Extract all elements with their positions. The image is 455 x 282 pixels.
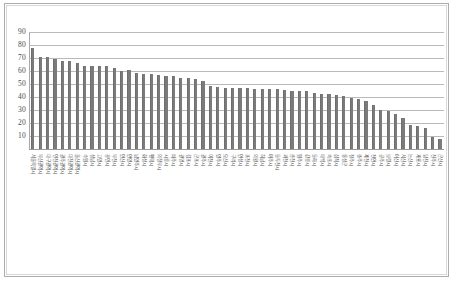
bar[interactable] bbox=[283, 90, 286, 149]
category-label: 안산시 bbox=[119, 154, 124, 166]
bar[interactable] bbox=[68, 61, 71, 149]
category-label-slot: 군포시 bbox=[192, 152, 199, 262]
bar-slot bbox=[133, 32, 140, 149]
bar[interactable] bbox=[350, 98, 353, 149]
bar[interactable] bbox=[46, 57, 49, 149]
category-label-slot: 논산시 bbox=[407, 152, 414, 262]
bar-slot bbox=[51, 32, 58, 149]
category-label-slot: 광주광역시 bbox=[59, 152, 66, 262]
category-label-slot: 성남시 bbox=[88, 152, 95, 262]
bar[interactable] bbox=[401, 118, 404, 149]
category-label: 강릉시 bbox=[304, 154, 309, 166]
category-label: 서산시 bbox=[401, 154, 406, 166]
category-label-slot: 보령시 bbox=[385, 152, 392, 262]
category-label: 논산시 bbox=[408, 154, 413, 166]
bar[interactable] bbox=[394, 114, 397, 149]
bar[interactable] bbox=[61, 61, 64, 149]
y-axis-tick-label: 30 bbox=[18, 106, 26, 114]
bar[interactable] bbox=[231, 88, 234, 149]
bar-slot bbox=[110, 32, 117, 149]
bar[interactable] bbox=[431, 137, 434, 149]
category-label: 춘천시 bbox=[290, 154, 295, 166]
category-label-slot: 용인시 bbox=[103, 152, 110, 262]
bar[interactable] bbox=[216, 87, 219, 149]
bar[interactable] bbox=[305, 91, 308, 150]
bar-slot bbox=[44, 32, 51, 149]
bar-slot bbox=[310, 32, 317, 149]
bar-slot bbox=[392, 32, 399, 149]
category-label-slot: 군산시 bbox=[436, 152, 443, 262]
category-label-slot: 원주시 bbox=[296, 152, 303, 262]
bar[interactable] bbox=[90, 66, 93, 149]
bar[interactable] bbox=[83, 66, 86, 149]
bar-slot bbox=[36, 32, 43, 149]
bar-slot bbox=[288, 32, 295, 149]
bar[interactable] bbox=[327, 94, 330, 149]
bar[interactable] bbox=[416, 126, 419, 149]
bar[interactable] bbox=[290, 91, 293, 150]
bar[interactable] bbox=[268, 89, 271, 149]
bar[interactable] bbox=[53, 59, 56, 149]
bar[interactable] bbox=[238, 88, 241, 149]
bar[interactable] bbox=[335, 95, 338, 149]
bar[interactable] bbox=[379, 110, 382, 149]
category-label-slot: 광주시 bbox=[199, 152, 206, 262]
bar[interactable] bbox=[172, 76, 175, 149]
bar[interactable] bbox=[224, 88, 227, 149]
category-label-slot: 시흥시 bbox=[162, 152, 169, 262]
bar[interactable] bbox=[409, 125, 412, 149]
bar[interactable] bbox=[105, 66, 108, 149]
bar[interactable] bbox=[157, 75, 160, 149]
bar[interactable] bbox=[76, 63, 79, 149]
bar[interactable] bbox=[209, 86, 212, 149]
bar-slot bbox=[88, 32, 95, 149]
y-axis-tick-label: 70 bbox=[18, 54, 26, 62]
bar[interactable] bbox=[261, 89, 264, 149]
bar[interactable] bbox=[320, 94, 323, 149]
category-label-slot: 구리시 bbox=[229, 152, 236, 262]
bar[interactable] bbox=[142, 74, 145, 149]
category-label: 이천시 bbox=[208, 154, 213, 166]
bar[interactable] bbox=[98, 66, 101, 149]
category-label-slot: 의정부시 bbox=[155, 152, 162, 262]
bar[interactable] bbox=[424, 128, 427, 149]
bar[interactable] bbox=[127, 70, 130, 149]
bar-slot bbox=[236, 32, 243, 149]
bar-slot bbox=[81, 32, 88, 149]
y-axis-tick-label: 40 bbox=[18, 93, 26, 101]
bar[interactable] bbox=[135, 73, 138, 149]
bar[interactable] bbox=[438, 139, 441, 149]
category-label-slot: 의왕시 bbox=[251, 152, 258, 262]
category-label: 고양시 bbox=[97, 154, 102, 166]
bar[interactable] bbox=[150, 74, 153, 149]
bar[interactable] bbox=[31, 48, 34, 149]
category-label-slot: 삼척시 bbox=[333, 152, 340, 262]
bar[interactable] bbox=[357, 99, 360, 149]
bar[interactable] bbox=[120, 71, 123, 149]
bar[interactable] bbox=[246, 88, 249, 149]
bar[interactable] bbox=[253, 89, 256, 149]
bar-slot bbox=[318, 32, 325, 149]
bar-slot bbox=[281, 32, 288, 149]
bar-slot bbox=[244, 32, 251, 149]
bar[interactable] bbox=[201, 81, 204, 149]
bar-chart: 908070605040302010 서울특별시부산광역시대구광역시인천광역시광… bbox=[5, 4, 450, 278]
category-label: 수원시 bbox=[82, 154, 87, 166]
bar[interactable] bbox=[364, 101, 367, 149]
bar-slot bbox=[103, 32, 110, 149]
category-label: 부천시 bbox=[112, 154, 117, 166]
bar[interactable] bbox=[276, 89, 279, 149]
bar[interactable] bbox=[194, 79, 197, 149]
bar[interactable] bbox=[113, 68, 116, 149]
category-label: 양주시 bbox=[215, 154, 220, 166]
bar[interactable] bbox=[372, 105, 375, 149]
bar[interactable] bbox=[187, 78, 190, 149]
bar[interactable] bbox=[387, 111, 390, 149]
bar[interactable] bbox=[298, 91, 301, 150]
bar[interactable] bbox=[164, 76, 167, 149]
bar[interactable] bbox=[179, 78, 182, 150]
bar[interactable] bbox=[342, 96, 345, 149]
bar-slot bbox=[407, 32, 414, 149]
bar[interactable] bbox=[313, 93, 316, 149]
bar[interactable] bbox=[39, 57, 42, 149]
